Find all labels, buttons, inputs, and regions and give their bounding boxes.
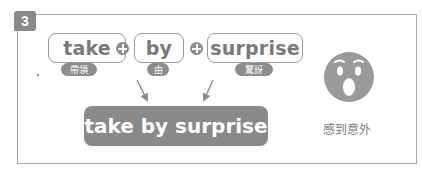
meaning-label: 感到意外 [312,120,382,137]
arrow-down-left-icon [205,80,213,98]
result-phrase: take by surprise [84,106,268,146]
arrow-down-right-icon [137,80,146,98]
surprised-face-icon [323,50,375,104]
